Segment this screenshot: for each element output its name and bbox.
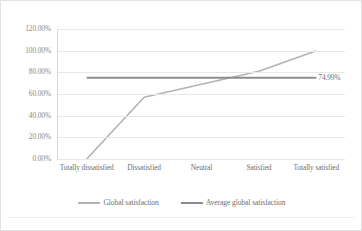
x-axis-tick-label: Dissatisfied <box>115 163 172 193</box>
chart-container: 0.00%20.00%40.00%60.00%80.00%100.00%120.… <box>0 0 362 231</box>
gridline <box>58 72 345 73</box>
gridline <box>58 159 345 160</box>
gridline <box>58 116 345 117</box>
legend-swatch-icon <box>78 202 100 204</box>
x-axis-tick-label: Neutral <box>173 163 230 193</box>
average-value-label: 74.99% <box>318 73 340 82</box>
line-global-satisfaction <box>87 51 317 159</box>
legend-label: Average global satisfaction <box>206 198 286 207</box>
legend-divider <box>9 217 355 218</box>
y-axis-tick-label: 60.00% <box>29 90 51 97</box>
legend-item-average-global-satisfaction[interactable]: Average global satisfaction <box>181 198 286 207</box>
gridline <box>58 94 345 95</box>
chart-legend: Global satisfaction Average global satis… <box>1 198 362 207</box>
y-axis-tick-label: 100.00% <box>25 47 51 54</box>
y-axis-tick-label: 40.00% <box>29 112 51 119</box>
gridline <box>58 29 345 30</box>
y-axis-tick-label: 120.00% <box>25 25 51 32</box>
y-axis: 0.00%20.00%40.00%60.00%80.00%100.00%120.… <box>1 1 55 231</box>
y-axis-tick-label: 80.00% <box>29 68 51 75</box>
legend-label: Global satisfaction <box>103 198 158 207</box>
plot-area <box>58 29 345 159</box>
gridline <box>58 137 345 138</box>
y-axis-tick-label: 20.00% <box>29 133 51 140</box>
legend-item-global-satisfaction[interactable]: Global satisfaction <box>78 198 158 207</box>
gridline <box>58 51 345 52</box>
x-axis: Totally dissatisfiedDissatisfiedNeutralS… <box>58 163 345 193</box>
x-axis-tick-label: Totally dissatisfied <box>58 163 115 193</box>
y-axis-tick-label: 0.00% <box>32 155 51 162</box>
legend-swatch-icon <box>181 202 203 204</box>
x-axis-tick-label: Totally satisfied <box>288 163 345 193</box>
x-axis-tick-label: Satisfied <box>230 163 287 193</box>
